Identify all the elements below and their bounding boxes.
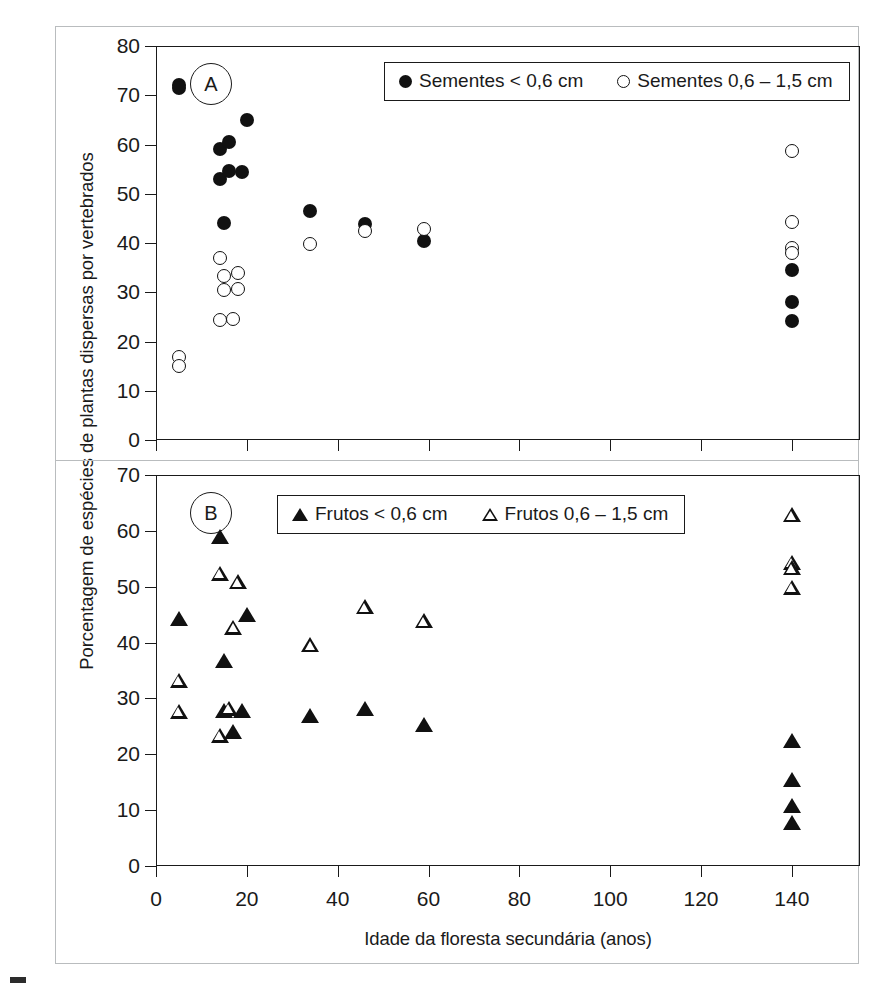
data-point (240, 113, 254, 127)
x-tick-label: 120 (671, 888, 731, 909)
legend-panel-b: Frutos < 0,6 cm Frutos 0,6 – 1,5 cm (277, 495, 685, 534)
y-tick (145, 243, 156, 244)
y-tick-label: 30 (80, 687, 140, 708)
y-tick (145, 754, 156, 755)
x-tick (610, 866, 611, 877)
x-tick (429, 866, 430, 877)
legend-entry-frutos-small: Frutos < 0,6 cm (292, 503, 448, 525)
y-tick-label: 80 (80, 35, 140, 56)
x-tick-label: 20 (217, 888, 277, 909)
y-tick (145, 292, 156, 293)
y-tick-label: 50 (80, 576, 140, 597)
panel-b-tag: B (190, 492, 232, 534)
y-tick-label: 70 (80, 84, 140, 105)
data-point (211, 566, 229, 581)
data-point (215, 653, 233, 668)
y-tick-label: 40 (80, 632, 140, 653)
data-point (170, 673, 188, 688)
y-tick (145, 391, 156, 392)
data-point (211, 529, 229, 544)
y-tick-label: 70 (80, 464, 140, 485)
panel-b-tag-label: B (204, 502, 217, 525)
data-point (783, 733, 801, 748)
x-tick (792, 440, 793, 451)
data-point (783, 798, 801, 813)
x-tick (247, 440, 248, 451)
data-point (785, 263, 799, 277)
x-tick (701, 866, 702, 877)
y-tick (145, 643, 156, 644)
x-tick (610, 440, 611, 451)
panel-a-plot-frame (156, 46, 860, 440)
data-point (220, 701, 238, 716)
data-point (301, 637, 319, 652)
legend-label-frutos-medium: Frutos 0,6 – 1,5 cm (505, 503, 669, 525)
y-tick-label: 0 (80, 429, 140, 450)
y-tick-label: 20 (80, 743, 140, 764)
x-tick (792, 866, 793, 877)
panel-divider (56, 460, 859, 461)
data-point (222, 135, 236, 149)
x-tick-label: 0 (126, 888, 186, 909)
data-point (783, 772, 801, 787)
y-tick (145, 342, 156, 343)
y-tick-label: 50 (80, 183, 140, 204)
data-point (783, 815, 801, 830)
data-point (415, 613, 433, 628)
data-point (301, 708, 319, 723)
data-point (415, 717, 433, 732)
legend-label-frutos-small: Frutos < 0,6 cm (315, 503, 448, 525)
x-tick-label: 80 (489, 888, 549, 909)
data-point (785, 246, 799, 260)
data-point (231, 282, 245, 296)
data-point (217, 283, 231, 297)
y-tick (145, 46, 156, 47)
data-point (358, 224, 372, 238)
x-tick (247, 866, 248, 877)
y-tick-label: 60 (80, 520, 140, 541)
x-tick (519, 440, 520, 451)
x-tick-label: 60 (399, 888, 459, 909)
legend-panel-a: Sementes < 0,6 cm Sementes 0,6 – 1,5 cm (384, 62, 850, 101)
y-tick (145, 866, 156, 867)
panel-a: A Sementes < 0,6 cm Sementes 0,6 – 1,5 c… (156, 46, 860, 440)
data-point (783, 580, 801, 595)
panel-a-tag-label: A (204, 73, 217, 96)
panel-a-tag: A (190, 63, 232, 105)
y-tick (145, 475, 156, 476)
y-tick-label: 10 (80, 799, 140, 820)
x-axis-title: Idade da floresta secundária (anos) (156, 928, 860, 950)
data-point (170, 704, 188, 719)
x-tick-label: 140 (762, 888, 822, 909)
filled-circle-icon (399, 75, 412, 88)
data-point (170, 611, 188, 626)
y-tick (145, 95, 156, 96)
y-tick (145, 810, 156, 811)
x-tick (338, 866, 339, 877)
x-tick (156, 440, 157, 451)
y-tick-label: 30 (80, 281, 140, 302)
data-point (356, 599, 374, 614)
y-tick (145, 587, 156, 588)
legend-entry-sementes-medium: Sementes 0,6 – 1,5 cm (617, 70, 832, 92)
data-point (213, 251, 227, 265)
data-point (217, 269, 231, 283)
y-tick (145, 531, 156, 532)
y-tick-label: 10 (80, 380, 140, 401)
legend-label-sementes-small: Sementes < 0,6 cm (419, 70, 583, 92)
data-point (783, 560, 801, 575)
y-tick (145, 698, 156, 699)
data-point (172, 359, 186, 373)
legend-entry-sementes-small: Sementes < 0,6 cm (399, 70, 583, 92)
y-tick-label: 20 (80, 331, 140, 352)
panel-b: B Frutos < 0,6 cm Frutos 0,6 – 1,5 cm 01… (156, 475, 860, 866)
x-tick (519, 866, 520, 877)
x-tick-label: 100 (580, 888, 640, 909)
x-tick (156, 866, 157, 877)
data-point (356, 701, 374, 716)
y-tick (145, 145, 156, 146)
data-point (226, 312, 240, 326)
x-tick (701, 440, 702, 451)
filled-triangle-icon (292, 508, 308, 521)
data-point (172, 81, 186, 95)
